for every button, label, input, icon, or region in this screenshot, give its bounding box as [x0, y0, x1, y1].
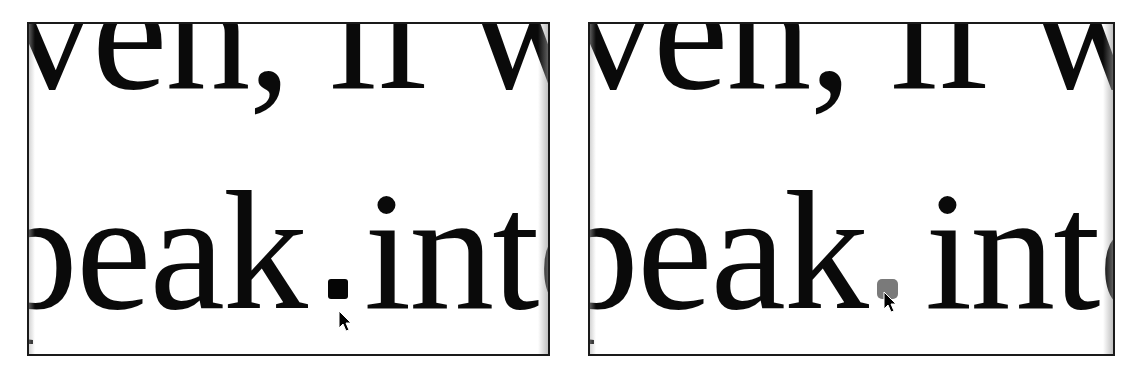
- text-zoom-panel-left: ven, if w peakinte: [27, 22, 550, 356]
- text-line-top: ven, if w: [588, 22, 1115, 116]
- text-zoom-panel-right: ven, if w peakinte: [588, 22, 1115, 356]
- word-right: inte: [925, 166, 1115, 336]
- word-gap: [306, 298, 364, 308]
- mouse-pointer-icon: [338, 310, 354, 334]
- word-right: inte: [364, 166, 550, 336]
- text-line-bottom: peakinte: [27, 166, 550, 336]
- mouse-pointer-icon: [883, 291, 899, 315]
- word-left: peak: [588, 166, 867, 336]
- text-line-top: ven, if w: [27, 22, 550, 116]
- text-cursor-marker: [328, 279, 348, 299]
- text-line-bottom: peakinte: [588, 166, 1115, 336]
- word-left: peak: [27, 166, 306, 336]
